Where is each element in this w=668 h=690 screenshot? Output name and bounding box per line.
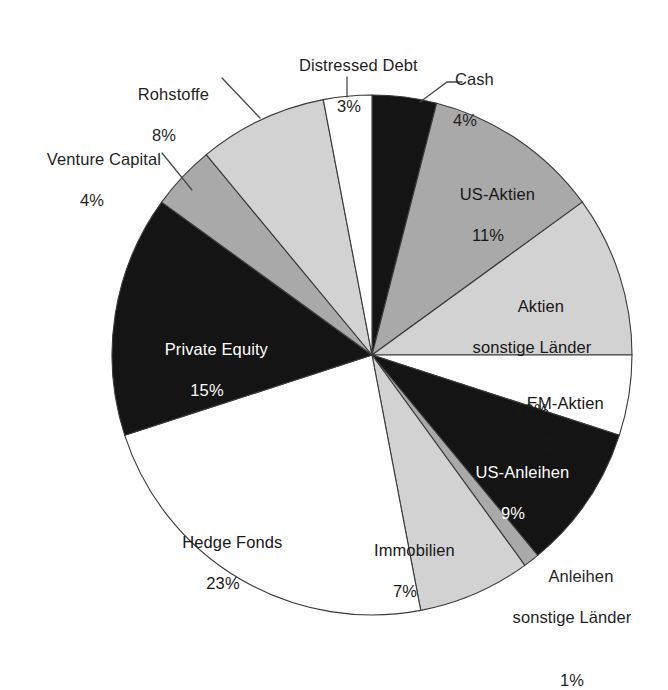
- leader-line-rohstoffe: [222, 78, 260, 118]
- slice-label-private-equity-pct: 15%: [127, 380, 287, 401]
- slice-label-cash: Cash 4%: [420, 48, 510, 173]
- slice-label-private-equity: Private Equity 15%: [127, 318, 287, 443]
- slice-label-venture-capital: Venture Capital 4%: [28, 128, 156, 253]
- slice-label-hedge-fonds-name: Hedge Fonds: [182, 533, 282, 551]
- slice-label-distressed-debt: Distressed Debt 3%: [274, 34, 424, 159]
- slice-label-em-aktien-name: EM-Aktien: [527, 394, 604, 412]
- slice-label-venture-capital-name: Venture Capital: [47, 150, 161, 168]
- slice-label-us-aktien-pct: 11%: [424, 225, 552, 246]
- slice-label-rohstoffe-name: Rohstoffe: [138, 85, 209, 103]
- slice-label-hedge-fonds-pct: 23%: [148, 573, 298, 594]
- slice-label-distressed-debt-name: Distressed Debt: [299, 56, 418, 74]
- slice-label-distressed-debt-pct: 3%: [274, 96, 424, 117]
- slice-label-cash-name: Cash: [455, 70, 494, 88]
- slice-label-aktien-sonstige-line2: sonstige Länder: [452, 337, 612, 358]
- slice-label-immobilien-pct: 7%: [342, 581, 468, 602]
- slice-label-venture-capital-pct: 4%: [28, 190, 156, 211]
- slice-label-anleihen-sonstige: Anleihen sonstige Länder 1%: [496, 545, 648, 690]
- slice-label-private-equity-name: Private Equity: [165, 340, 268, 358]
- slice-label-anleihen-sonstige-line1: Anleihen: [548, 567, 613, 585]
- slice-label-anleihen-sonstige-line2: sonstige Länder: [496, 607, 648, 628]
- slice-label-us-anleihen-name: US-Anleihen: [476, 463, 570, 481]
- slice-label-immobilien-name: Immobilien: [374, 541, 455, 559]
- slice-label-us-aktien-name: US-Aktien: [460, 185, 535, 203]
- slice-label-cash-pct: 4%: [420, 110, 510, 131]
- slice-label-anleihen-sonstige-pct: 1%: [496, 670, 648, 690]
- slice-label-aktien-sonstige-line1: Aktien: [518, 297, 564, 315]
- slice-label-us-aktien: US-Aktien 11%: [424, 163, 552, 288]
- slice-label-immobilien: Immobilien 7%: [342, 519, 468, 644]
- slice-label-hedge-fonds: Hedge Fonds 23%: [148, 511, 298, 636]
